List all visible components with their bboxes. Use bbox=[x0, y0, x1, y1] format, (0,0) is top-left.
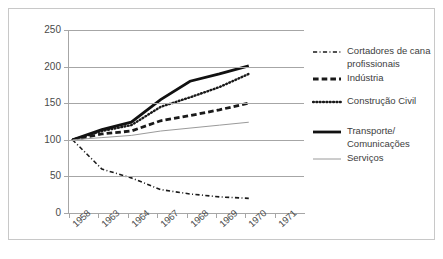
series-line bbox=[73, 140, 249, 199]
chart-legend: Cortadores de canaprofissionaisIndústria… bbox=[312, 45, 443, 168]
legend-item[interactable]: Cortadores de canaprofissionais bbox=[312, 45, 443, 70]
legend-label: Construção Civil bbox=[347, 95, 416, 108]
legend-label-line: Transporte/ bbox=[347, 125, 410, 138]
x-axis-tick-mark bbox=[69, 214, 70, 218]
y-axis-tick-mark bbox=[64, 67, 68, 68]
y-axis-tick-mark bbox=[64, 103, 68, 104]
y-axis-tick-label: 0 bbox=[33, 208, 61, 218]
x-axis-tick-mark bbox=[245, 214, 246, 218]
legend-label: Cortadores de canaprofissionais bbox=[347, 45, 430, 70]
legend-label-line: Comunicações bbox=[347, 138, 410, 151]
gridline bbox=[69, 67, 304, 68]
legend-label-line: Indústria bbox=[347, 72, 383, 85]
x-axis-tick-mark bbox=[128, 214, 129, 218]
x-axis-tick-mark bbox=[157, 214, 158, 218]
y-axis-tick-mark bbox=[64, 30, 68, 31]
x-axis-tick-mark bbox=[275, 214, 276, 218]
gridline bbox=[69, 103, 304, 104]
legend-line-swatch bbox=[312, 45, 342, 59]
legend-line-swatch bbox=[312, 125, 342, 139]
legend-label: Transporte/Comunicações bbox=[347, 125, 410, 150]
y-axis-tick-mark bbox=[64, 140, 68, 141]
y-axis-tick-label: 50 bbox=[33, 171, 61, 181]
legend-label-line: Cortadores de cana bbox=[347, 45, 430, 58]
chart-frame: 050100150200250 195819631964196719681969… bbox=[8, 8, 435, 240]
legend-line-swatch bbox=[312, 152, 342, 166]
legend-label: Serviços bbox=[347, 152, 383, 165]
y-axis-tick-label: 100 bbox=[33, 135, 61, 145]
legend-line-swatch bbox=[312, 95, 342, 109]
y-axis-line bbox=[68, 30, 69, 214]
legend-line-swatch bbox=[312, 72, 342, 86]
y-axis-tick-label: 250 bbox=[33, 25, 61, 35]
legend-item[interactable]: Transporte/Comunicações bbox=[312, 125, 443, 150]
legend-item[interactable]: Serviços bbox=[312, 152, 443, 166]
legend-item[interactable]: Indústria bbox=[312, 72, 443, 86]
x-axis-tick-mark bbox=[187, 214, 188, 218]
series-lines bbox=[69, 30, 304, 213]
x-axis-tick-mark bbox=[216, 214, 217, 218]
gridline bbox=[69, 176, 304, 177]
y-axis-tick-mark bbox=[64, 213, 68, 214]
y-axis-tick-label: 150 bbox=[33, 98, 61, 108]
plot-area bbox=[69, 30, 304, 213]
series-line bbox=[73, 103, 249, 140]
legend-label-line: profissionais bbox=[347, 58, 430, 71]
chart-container: 050100150200250 195819631964196719681969… bbox=[0, 0, 443, 259]
gridline bbox=[69, 30, 304, 31]
gridline bbox=[69, 140, 304, 141]
y-axis-labels: 050100150200250 bbox=[27, 9, 61, 241]
legend-label-line: Construção Civil bbox=[347, 95, 416, 108]
legend-spacer bbox=[312, 88, 443, 95]
y-axis-tick-label: 200 bbox=[33, 62, 61, 72]
x-axis-tick-mark bbox=[98, 214, 99, 218]
legend-label: Indústria bbox=[347, 72, 383, 85]
legend-label-line: Serviços bbox=[347, 152, 383, 165]
legend-item[interactable]: Construção Civil bbox=[312, 95, 443, 109]
legend-spacer bbox=[312, 111, 443, 125]
y-axis-tick-mark bbox=[64, 176, 68, 177]
